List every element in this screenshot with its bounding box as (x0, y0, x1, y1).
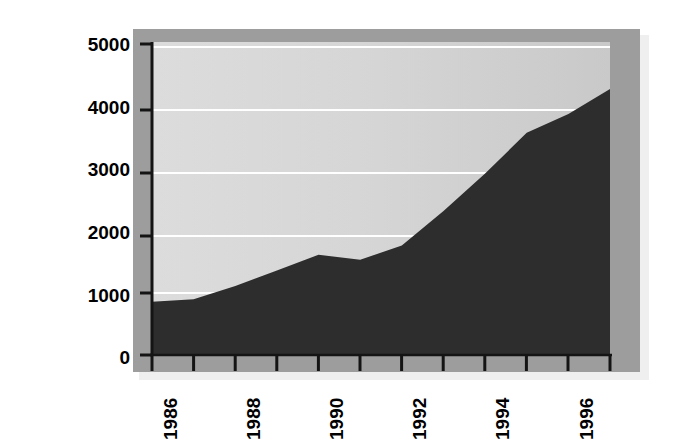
x-tick-label-1994: 1994 (493, 398, 512, 440)
x-tick-label-1986: 1986 (161, 398, 180, 440)
area-chart: Millions of Dollars 5000 4000 3000 2000 … (0, 0, 675, 448)
x-axis-tick-labels: 1986 1988 1990 1992 1994 1996 (0, 0, 675, 448)
x-tick-label-1996: 1996 (577, 398, 596, 440)
x-tick-label-1988: 1988 (244, 398, 263, 440)
x-tick-label-1990: 1990 (327, 398, 346, 440)
x-tick-label-1992: 1992 (410, 398, 429, 440)
